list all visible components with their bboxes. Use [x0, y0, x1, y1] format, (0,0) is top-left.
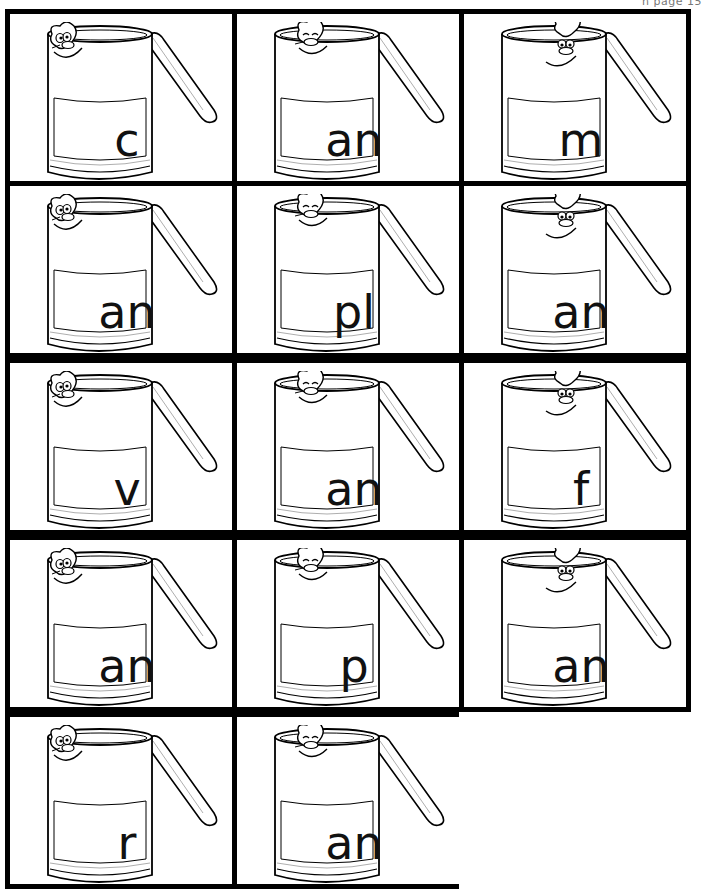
- card-word-part: an: [300, 110, 408, 170]
- card-word-part: p: [300, 636, 408, 696]
- card-row: an pl: [5, 186, 701, 363]
- can-illustration-icon: an: [40, 548, 240, 713]
- can-illustration-icon: p: [267, 548, 467, 713]
- can-illustration-icon: m: [494, 22, 694, 187]
- card-row: an p: [5, 540, 701, 717]
- can-illustration-icon: f: [494, 371, 694, 536]
- card-word-part: an: [73, 282, 181, 342]
- word-card: pl: [232, 181, 464, 358]
- card-word-part: pl: [300, 282, 408, 342]
- word-card-grid: c an: [5, 9, 701, 893]
- can-illustration-icon: an: [267, 371, 467, 536]
- card-word-part: c: [73, 110, 181, 170]
- card-word-part: r: [73, 813, 181, 873]
- card-word-part: an: [300, 813, 408, 873]
- card-row: c an: [5, 9, 701, 186]
- word-card: an: [5, 535, 237, 712]
- card-word-part: v: [73, 459, 181, 519]
- can-illustration-icon: an: [267, 725, 467, 890]
- word-card: r: [5, 712, 237, 889]
- card-row: v an: [5, 363, 701, 540]
- word-card: an: [459, 181, 691, 358]
- word-card: an: [5, 181, 237, 358]
- word-card: an: [232, 358, 464, 535]
- can-illustration-icon: an: [494, 548, 694, 713]
- word-card: an: [232, 9, 464, 186]
- card-word-part: f: [527, 459, 635, 519]
- can-illustration-icon: an: [494, 194, 694, 359]
- page-reference-note: n page 15: [642, 0, 702, 8]
- word-card: an: [232, 712, 464, 889]
- word-card: f: [459, 358, 691, 535]
- can-illustration-icon: an: [40, 194, 240, 359]
- word-card: v: [5, 358, 237, 535]
- word-card: c: [5, 9, 237, 186]
- can-illustration-icon: an: [267, 22, 467, 187]
- card-word-part: an: [73, 636, 181, 696]
- word-card: m: [459, 9, 691, 186]
- card-word-part: m: [527, 110, 635, 170]
- empty-cell: [459, 712, 691, 889]
- word-card: an: [459, 535, 691, 712]
- card-word-part: an: [527, 636, 635, 696]
- card-row: r an: [5, 717, 701, 893]
- word-card: p: [232, 535, 464, 712]
- card-word-part: an: [300, 459, 408, 519]
- can-illustration-icon: v: [40, 371, 240, 536]
- can-illustration-icon: c: [40, 22, 240, 187]
- can-illustration-icon: pl: [267, 194, 467, 359]
- can-illustration-icon: r: [40, 725, 240, 890]
- card-word-part: an: [527, 282, 635, 342]
